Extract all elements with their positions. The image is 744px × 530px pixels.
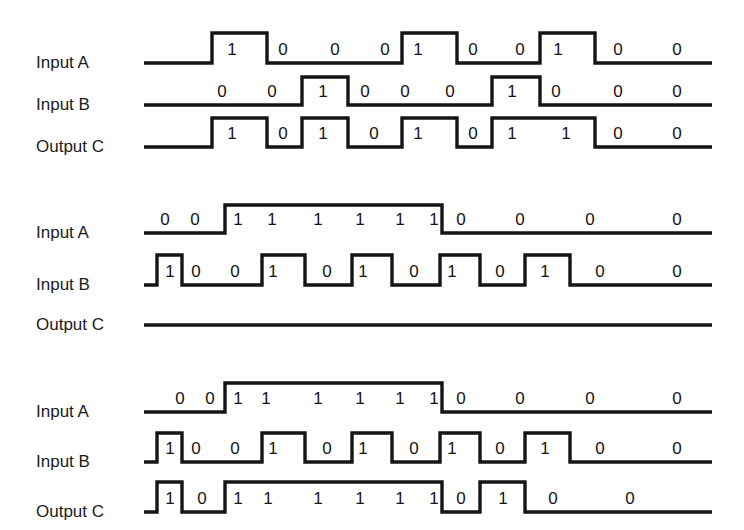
waveform-trace-input-b [144, 255, 712, 285]
bit-value-label: 0 [585, 210, 594, 229]
bit-value-label: 0 [360, 82, 369, 101]
waveform-row-input-b: Input B100101010100 [36, 433, 712, 471]
bit-value-label: 0 [191, 262, 200, 281]
waveform-label-output-c: Output C [36, 137, 104, 156]
bit-value-label: 1 [233, 210, 242, 229]
waveform-trace-input-a [144, 205, 712, 233]
bit-value-label: 1 [395, 489, 404, 508]
timing-diagram-figure: Input A1000100100Input B0010001000Output… [0, 0, 744, 530]
bit-value-label: 0 [468, 40, 477, 59]
bit-value-label: 1 [540, 439, 549, 458]
timing-diagram-1: Input A1000100100Input B0010001000Output… [36, 33, 712, 156]
bit-value-label: 0 [191, 439, 200, 458]
bit-value-label: 0 [322, 439, 331, 458]
bit-value-label: 1 [395, 210, 404, 229]
bit-value-label: 0 [613, 82, 622, 101]
bit-value-label: 1 [313, 210, 322, 229]
bit-value-label: 0 [205, 389, 214, 408]
bit-value-label: 1 [268, 439, 277, 458]
bit-value-label: 0 [468, 124, 477, 143]
bit-value-label: 0 [190, 210, 199, 229]
bit-value-label: 0 [456, 489, 465, 508]
bit-value-label: 1 [429, 489, 438, 508]
bit-value-label: 0 [278, 124, 287, 143]
bit-value-label: 0 [595, 262, 604, 281]
bit-value-label: 1 [313, 389, 322, 408]
timing-diagram-3: Input A001111110000Input B100101010100Ou… [36, 383, 712, 521]
bit-value-label: 0 [409, 439, 418, 458]
bit-value-label: 1 [233, 389, 242, 408]
bit-value-label: 1 [165, 439, 174, 458]
bit-value-label: 1 [355, 489, 364, 508]
bit-value-label: 1 [561, 124, 570, 143]
bit-value-label: 0 [400, 82, 409, 101]
waveform-row-input-a: Input A1000100100 [36, 33, 712, 72]
waveform-row-input-a: Input A001111110000 [36, 205, 712, 242]
bit-value-label: 0 [672, 262, 681, 281]
bit-value-label: 0 [495, 262, 504, 281]
bit-value-label: 1 [413, 124, 422, 143]
waveform-row-output-c: Output C [36, 315, 712, 334]
waveform-label-output-c: Output C [36, 502, 104, 521]
bit-value-label: 0 [409, 262, 418, 281]
bit-value-label: 0 [217, 82, 226, 101]
waveform-trace-input-a [144, 383, 712, 412]
waveform-row-input-b: Input B0010001000 [36, 77, 712, 114]
waveform-label-output-c: Output C [36, 315, 104, 334]
bit-value-label: 1 [498, 489, 507, 508]
bit-value-label: 1 [227, 124, 236, 143]
bit-value-label: 1 [358, 262, 367, 281]
waveform-row-output-c: Output C1010101100 [36, 118, 712, 156]
bit-value-label: 0 [267, 82, 276, 101]
bit-value-label: 1 [233, 489, 242, 508]
bit-value-label: 1 [413, 40, 422, 59]
bit-value-label: 0 [445, 82, 454, 101]
bit-value-label: 0 [456, 210, 465, 229]
bit-value-label: 0 [672, 389, 681, 408]
bit-value-label: 0 [380, 40, 389, 59]
bit-value-label: 0 [278, 40, 287, 59]
bit-value-label: 1 [313, 489, 322, 508]
waveform-label-input-b: Input B [36, 95, 90, 114]
waveform-trace-input-b [144, 77, 712, 105]
bit-value-label: 1 [429, 389, 438, 408]
waveform-row-output-c: Output C101111110100 [36, 482, 712, 521]
bit-value-label: 1 [429, 210, 438, 229]
bit-value-label: 1 [227, 40, 236, 59]
bit-value-label: 1 [355, 210, 364, 229]
timing-diagram-2: Input A001111110000Input B100101010100Ou… [36, 205, 712, 334]
bit-value-label: 0 [548, 489, 557, 508]
waveform-label-input-b: Input B [36, 275, 90, 294]
bit-value-label: 1 [395, 389, 404, 408]
waveform-label-input-b: Input B [36, 452, 90, 471]
bit-value-label: 0 [495, 439, 504, 458]
bit-value-label: 0 [456, 389, 465, 408]
bit-value-label: 0 [595, 439, 604, 458]
bit-value-label: 0 [585, 389, 594, 408]
bit-value-label: 1 [165, 262, 174, 281]
bit-value-label: 1 [553, 40, 562, 59]
waveform-label-input-a: Input A [36, 223, 90, 242]
bit-value-label: 0 [672, 40, 681, 59]
bit-value-label: 0 [672, 210, 681, 229]
bit-value-label: 0 [322, 262, 331, 281]
bit-value-label: 0 [672, 82, 681, 101]
waveform-label-input-a: Input A [36, 402, 90, 421]
bit-value-label: 0 [672, 439, 681, 458]
waveform-trace-input-b [144, 433, 712, 462]
bit-value-label: 0 [230, 439, 239, 458]
bit-value-label: 1 [268, 262, 277, 281]
bit-value-label: 0 [330, 40, 339, 59]
bit-value-label: 1 [507, 124, 516, 143]
bit-value-label: 0 [369, 124, 378, 143]
bit-value-label: 1 [165, 489, 174, 508]
bit-value-label: 0 [625, 489, 634, 508]
bit-value-label: 0 [613, 124, 622, 143]
bit-value-label: 1 [318, 82, 327, 101]
bit-value-label: 1 [261, 389, 270, 408]
waveform-row-input-b: Input B100101010100 [36, 255, 712, 294]
bit-value-label: 1 [358, 439, 367, 458]
bit-value-label: 0 [551, 82, 560, 101]
bit-value-label: 1 [540, 262, 549, 281]
bit-value-label: 1 [507, 82, 516, 101]
